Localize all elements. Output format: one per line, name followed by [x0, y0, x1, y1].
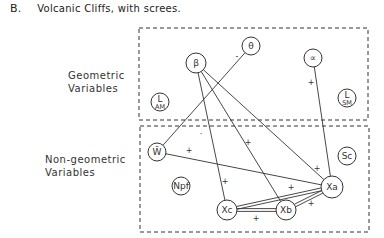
edge-sign: + [314, 164, 321, 173]
svg-text:SM: SM [342, 99, 352, 107]
node-Npf: Npf [172, 177, 190, 195]
edge-sign: + [186, 146, 193, 155]
edge-beta-Xa: + [203, 70, 323, 180]
node-Xc: Xc [217, 200, 237, 220]
edge-sign: + [288, 183, 295, 192]
group-boxes [139, 28, 369, 232]
node-Sc: Sc [338, 147, 356, 165]
svg-text:Sc: Sc [342, 151, 353, 161]
edge-sign: - [236, 52, 239, 61]
node-beta: β [186, 53, 206, 73]
annotation-mark: · [200, 130, 203, 139]
svg-text:Xb: Xb [280, 205, 292, 215]
annotations: · [200, 130, 203, 139]
node-Xb: Xb [276, 200, 296, 220]
svg-text:Npf: Npf [173, 181, 189, 191]
edge-sign: + [308, 199, 315, 208]
svg-text:W̄: W̄ [153, 146, 162, 157]
edge-sign: + [245, 138, 252, 147]
node-LSM: LSM [338, 89, 356, 107]
edge-W-Xa: + [166, 146, 321, 185]
node-W: W̄ [148, 143, 166, 161]
node-Xa: Xa [321, 176, 343, 198]
svg-text:AM: AM [155, 103, 165, 111]
node-theta: θ [242, 37, 260, 55]
edges: -++++++++ [163, 52, 330, 223]
edge-sign: + [222, 177, 229, 186]
edge-sign: + [253, 214, 260, 223]
svg-text:Xa: Xa [326, 182, 338, 192]
variable-relationship-diagram: -++++++++ θβ∝LAMLSMW̄ScNpfXaXcXb · [0, 0, 384, 238]
nodes: θβ∝LAMLSMW̄ScNpfXaXcXb [148, 37, 356, 220]
svg-text:θ: θ [248, 41, 254, 51]
node-alpha: ∝ [304, 49, 322, 67]
node-LAM: LAM [151, 93, 169, 111]
edge-sign: + [308, 78, 315, 87]
edge-alpha-Xa: + [308, 67, 331, 176]
svg-text:β: β [193, 58, 199, 68]
edge-Xc-Xb: + [237, 209, 276, 223]
svg-text:Xc: Xc [221, 205, 232, 215]
svg-text:∝: ∝ [310, 53, 316, 63]
edge-beta-Xb: + [201, 72, 281, 202]
